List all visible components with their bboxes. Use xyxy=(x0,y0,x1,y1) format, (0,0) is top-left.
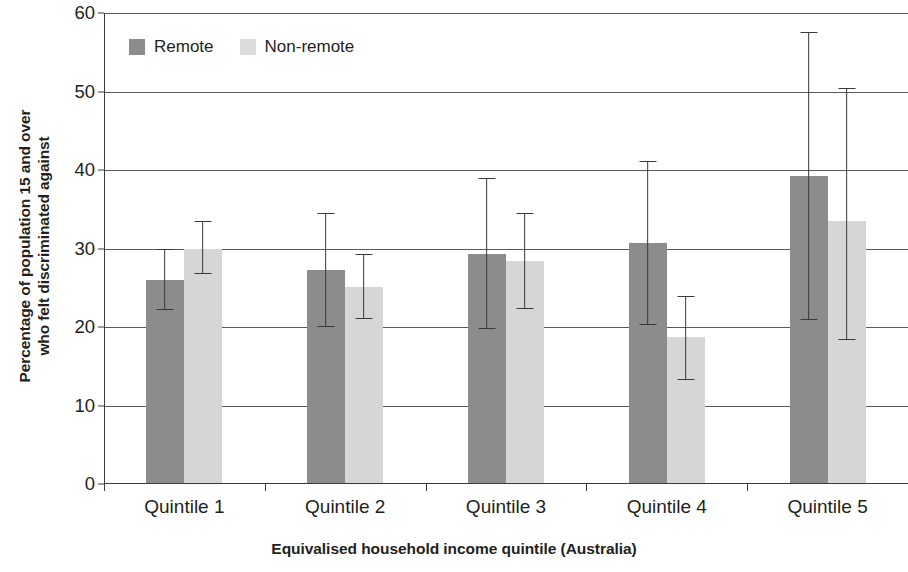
error-bar-cap-upper xyxy=(157,249,174,250)
error-bar-non-remote xyxy=(345,254,383,319)
x-axis-title: Equivalised household income quintile (A… xyxy=(0,540,908,558)
error-bar-cap-upper xyxy=(479,178,496,179)
x-axis-tick-mark xyxy=(104,484,105,491)
error-bar-non-remote xyxy=(506,213,544,309)
error-bar-remote xyxy=(790,32,828,320)
x-axis-tick-mark xyxy=(747,484,748,491)
error-bar-cap-lower xyxy=(838,339,855,340)
error-bar-stem xyxy=(846,88,847,340)
plot-area: 0102030405060 xyxy=(104,13,908,484)
error-bar-non-remote xyxy=(828,88,866,340)
error-bar-cap-lower xyxy=(318,326,335,327)
error-bar-cap-upper xyxy=(356,254,373,255)
y-axis-tick-label: 30 xyxy=(74,239,95,258)
error-bar-cap-upper xyxy=(800,32,817,33)
error-bar-stem xyxy=(685,296,686,379)
x-axis-tick-label: Quintile 1 xyxy=(144,497,224,516)
legend-swatch-remote-icon xyxy=(129,39,145,55)
error-bar-cap-lower xyxy=(800,319,817,320)
bar-non-remote xyxy=(184,249,222,485)
error-bar-cap-lower xyxy=(195,273,212,274)
x-axis-tick-label: Quintile 3 xyxy=(466,497,546,516)
error-bar-cap-upper xyxy=(517,213,534,214)
chart-figure: Percentage of population 15 and over who… xyxy=(0,0,908,572)
y-axis-line xyxy=(104,13,105,484)
y-axis-title-line-2: who felt discriminated against xyxy=(34,136,53,355)
error-bar-remote xyxy=(307,213,345,327)
error-bar-cap-upper xyxy=(677,296,694,297)
error-bar-remote xyxy=(629,161,667,326)
y-axis-tick-label: 60 xyxy=(74,4,95,23)
bar-remote xyxy=(146,280,184,484)
legend-swatch-non-remote-icon xyxy=(240,39,256,55)
gridline xyxy=(104,13,908,14)
error-bar-cap-upper xyxy=(639,161,656,162)
x-axis-tick-label: Quintile 4 xyxy=(627,497,707,516)
x-axis-line xyxy=(104,483,908,484)
error-bar-non-remote xyxy=(667,296,705,379)
error-bar-stem xyxy=(524,213,525,309)
y-axis-title-line-1: Percentage of population 15 and over xyxy=(15,110,34,383)
error-bar-stem xyxy=(363,254,364,319)
y-axis-tick-label: 50 xyxy=(74,82,95,101)
error-bar-cap-lower xyxy=(677,379,694,380)
x-axis-tick-mark xyxy=(426,484,427,491)
y-axis-tick-label: 40 xyxy=(74,161,95,180)
error-bar-cap-lower xyxy=(639,324,656,325)
error-bar-stem xyxy=(165,249,166,310)
error-bar-cap-upper xyxy=(195,221,212,222)
error-bar-remote xyxy=(468,178,506,329)
x-axis-tick-mark xyxy=(265,484,266,491)
x-axis-tick-label: Quintile 5 xyxy=(787,497,867,516)
error-bar-remote xyxy=(146,249,184,310)
error-bar-cap-lower xyxy=(157,309,174,310)
chart-legend: Remote Non-remote xyxy=(129,38,354,55)
error-bar-stem xyxy=(486,178,487,329)
error-bar-cap-lower xyxy=(356,318,373,319)
error-bar-stem xyxy=(203,221,204,274)
legend-item-remote: Remote xyxy=(129,38,214,55)
x-axis-tick-mark xyxy=(586,484,587,491)
x-axis-tick-label: Quintile 2 xyxy=(305,497,385,516)
error-bar-non-remote xyxy=(184,221,222,274)
gridline xyxy=(104,92,908,93)
y-axis-tick-label: 0 xyxy=(85,475,95,494)
gridline xyxy=(104,170,908,171)
error-bar-cap-upper xyxy=(318,213,335,214)
error-bar-stem xyxy=(325,213,326,327)
error-bar-cap-lower xyxy=(479,328,496,329)
legend-label-non-remote: Non-remote xyxy=(265,38,355,55)
error-bar-cap-upper xyxy=(838,88,855,89)
error-bar-stem xyxy=(808,32,809,320)
legend-label-remote: Remote xyxy=(154,38,214,55)
error-bar-stem xyxy=(647,161,648,326)
y-axis-title: Percentage of population 15 and over who… xyxy=(17,26,51,466)
error-bar-cap-lower xyxy=(517,308,534,309)
legend-item-non-remote: Non-remote xyxy=(240,38,355,55)
y-axis-tick-label: 10 xyxy=(74,396,95,415)
y-axis-tick-label: 20 xyxy=(74,318,95,337)
